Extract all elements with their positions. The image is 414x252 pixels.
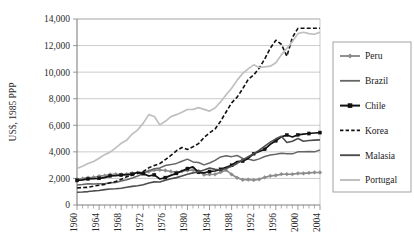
ytick-label: 0 bbox=[65, 200, 70, 210]
marker-chile bbox=[318, 131, 321, 134]
xtick-label: 2004 bbox=[312, 213, 322, 232]
marker-peru bbox=[274, 173, 278, 177]
legend-label-malasia: Malasia bbox=[365, 151, 396, 161]
series-line-brazil bbox=[77, 150, 320, 185]
marker-chile bbox=[97, 177, 100, 180]
marker-chile bbox=[109, 174, 112, 177]
legend-label-portugal: Portugal bbox=[365, 175, 398, 185]
y-axis-title: US$, 1985 PPP bbox=[8, 83, 18, 142]
marker-peru bbox=[296, 171, 300, 175]
ytick-label: 10,000 bbox=[44, 68, 70, 78]
marker-peru bbox=[307, 171, 311, 175]
series-line-malasia bbox=[77, 136, 320, 192]
marker-chile bbox=[285, 133, 288, 136]
legend-label-korea: Korea bbox=[365, 126, 389, 136]
marker-chile bbox=[153, 173, 156, 176]
marker-peru bbox=[268, 174, 272, 178]
xaxis-minor-ticks bbox=[77, 205, 320, 210]
xtick-label: 1976 bbox=[157, 213, 167, 232]
ytick-label: 6,000 bbox=[49, 121, 71, 131]
marker-peru bbox=[290, 172, 294, 176]
marker-chile bbox=[296, 133, 299, 136]
marker-chile bbox=[263, 148, 266, 151]
legend: PeruBrazilChileKoreaMalasiaPortugal bbox=[333, 42, 411, 192]
ytick-label: 2,000 bbox=[49, 174, 71, 184]
marker-chile bbox=[86, 177, 89, 180]
xtick-label: 1984 bbox=[202, 213, 212, 232]
legend-label-brazil: Brazil bbox=[365, 76, 389, 86]
marker-peru bbox=[279, 172, 283, 176]
xtick-label: 1996 bbox=[268, 213, 278, 232]
series-group bbox=[75, 28, 322, 192]
chart-canvas: 02,0004,0006,0008,00010,00012,00014,0001… bbox=[0, 0, 414, 252]
marker-peru bbox=[313, 171, 317, 175]
marker-peru bbox=[318, 171, 322, 175]
marker-peru bbox=[257, 177, 261, 181]
legend-border bbox=[333, 42, 411, 192]
xtick-label: 1980 bbox=[179, 213, 189, 232]
marker-chile bbox=[307, 132, 310, 135]
marker-peru bbox=[163, 169, 167, 173]
xtick-label: 1992 bbox=[246, 213, 256, 232]
xtick-label: 1988 bbox=[224, 213, 234, 232]
marker-chile bbox=[164, 176, 167, 179]
ytick-label: 14,000 bbox=[44, 14, 70, 24]
xtick-label: 1964 bbox=[91, 213, 101, 232]
xtick-label: 1960 bbox=[69, 213, 79, 232]
marker-chile bbox=[175, 172, 178, 175]
marker-chile bbox=[120, 174, 123, 177]
xtick-label: 1972 bbox=[135, 213, 145, 232]
marker-peru bbox=[285, 172, 289, 176]
xtick-label: 2000 bbox=[290, 213, 300, 232]
ytick-label: 12,000 bbox=[44, 41, 70, 51]
marker-chile bbox=[142, 172, 145, 175]
legend-label-peru: Peru bbox=[365, 51, 383, 61]
series-line-portugal bbox=[77, 32, 320, 168]
marker-chile bbox=[75, 179, 78, 182]
marker-chile bbox=[186, 167, 189, 170]
marker-peru bbox=[169, 170, 173, 174]
ytick-label: 8,000 bbox=[49, 94, 71, 104]
legend-marker-chile bbox=[348, 103, 353, 108]
line-chart: 02,0004,0006,0008,00010,00012,00014,0001… bbox=[0, 0, 414, 252]
xtick-label: 1968 bbox=[113, 213, 123, 232]
marker-peru bbox=[302, 171, 306, 175]
legend-label-chile: Chile bbox=[365, 101, 386, 111]
ytick-label: 4,000 bbox=[49, 147, 71, 157]
marker-chile bbox=[208, 170, 211, 173]
